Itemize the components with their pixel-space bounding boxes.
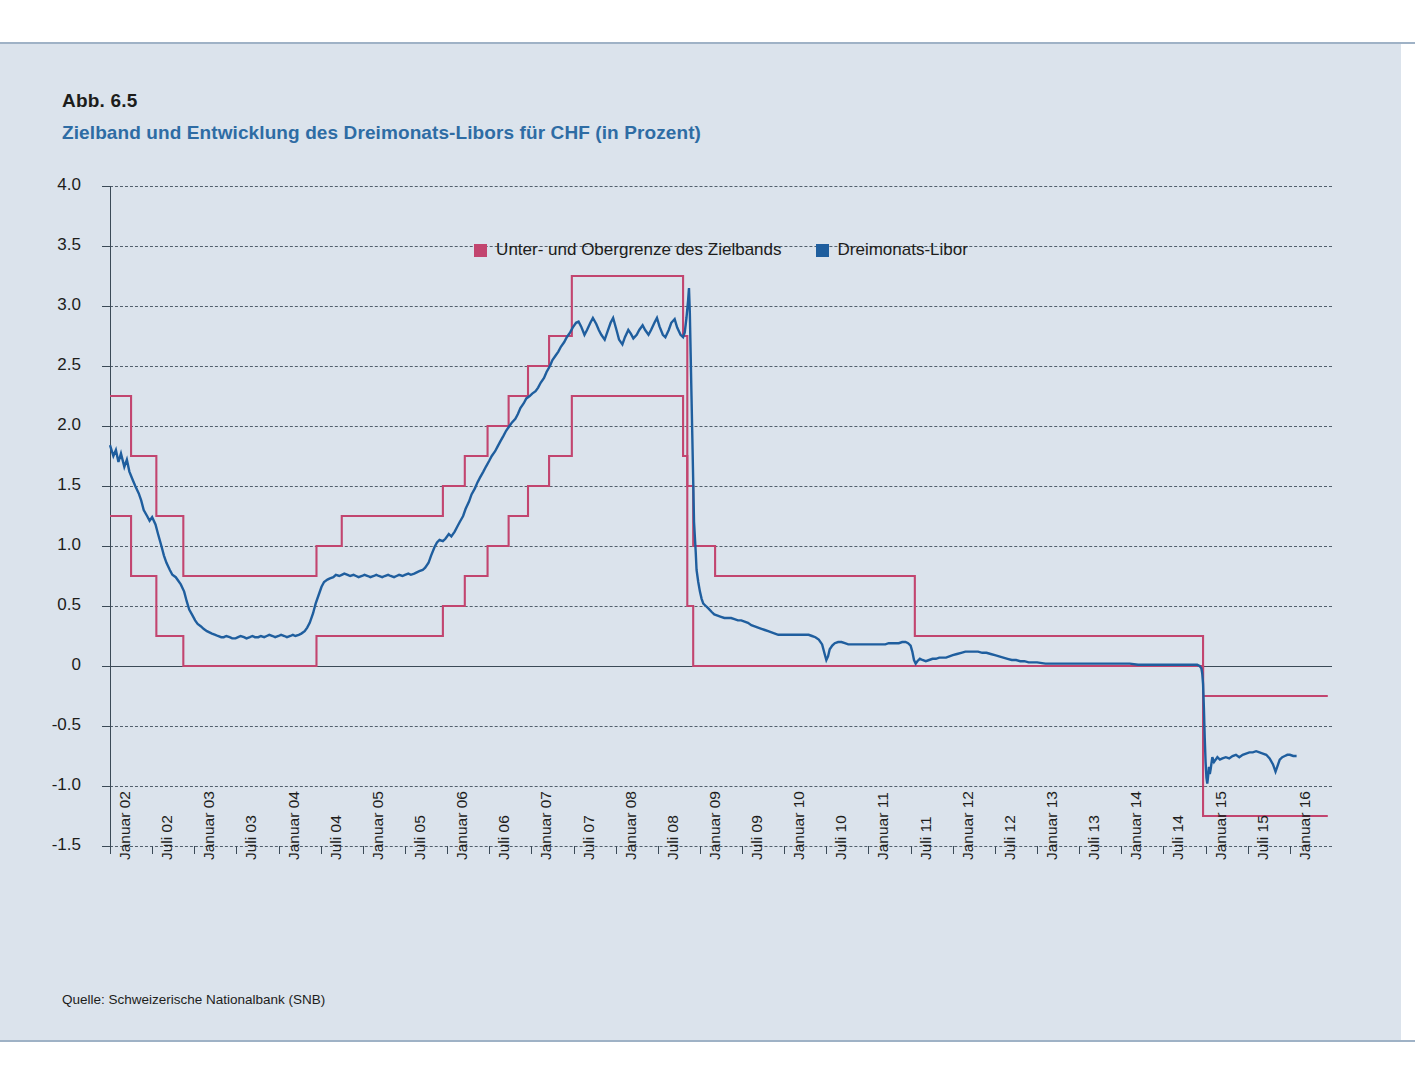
x-axis-label: Januar 13 <box>1043 791 1061 860</box>
y-axis-label: 1.5 <box>21 475 81 495</box>
y-axis-label: 0 <box>21 655 81 675</box>
legend-label: Dreimonats-Libor <box>838 240 968 260</box>
x-axis-label: Januar 02 <box>116 791 134 860</box>
y-axis-label: 0.5 <box>21 595 81 615</box>
x-tick <box>321 846 322 854</box>
figure-panel: Abb. 6.5 Zielband und Entwicklung des Dr… <box>0 42 1415 1042</box>
x-tick <box>279 846 280 854</box>
y-axis-label: -0.5 <box>21 715 81 735</box>
x-tick <box>447 846 448 854</box>
x-axis-label: Januar 05 <box>369 791 387 860</box>
x-tick <box>616 846 617 854</box>
x-axis-label: Juli 07 <box>580 815 598 860</box>
x-tick <box>1121 846 1122 854</box>
source-note: Quelle: Schweizerische Nationalbank (SNB… <box>62 992 325 1007</box>
x-axis-label: Juli 08 <box>664 815 682 860</box>
x-axis-label: Juli 11 <box>917 816 935 860</box>
legend-item: Dreimonats-Libor <box>816 240 968 260</box>
y-axis-label: 2.0 <box>21 415 81 435</box>
x-axis-label: Januar 09 <box>706 791 724 860</box>
x-axis-label: Januar 06 <box>453 791 471 860</box>
x-tick <box>1079 846 1080 854</box>
running-head <box>0 0 1415 40</box>
x-axis-label: Januar 10 <box>790 791 808 860</box>
figure-title: Zielband und Entwicklung des Dreimonats-… <box>62 122 701 144</box>
x-axis-label: Januar 11 <box>874 792 892 860</box>
chart-legend: Unter- und Obergrenze des ZielbandsDreim… <box>110 240 1332 260</box>
x-tick <box>1206 846 1207 854</box>
x-tick <box>236 846 237 854</box>
x-axis-label: Juli 05 <box>411 815 429 860</box>
x-axis-label: Juli 15 <box>1254 815 1272 860</box>
y-axis-label: 1.0 <box>21 535 81 555</box>
legend-swatch-icon <box>816 244 829 257</box>
x-tick <box>152 846 153 854</box>
x-tick <box>826 846 827 854</box>
x-axis-label: Januar 08 <box>622 791 640 860</box>
x-axis-label: Juli 06 <box>495 815 513 860</box>
x-axis-label: Juli 14 <box>1169 815 1187 860</box>
series-line <box>110 276 1328 696</box>
figure-number: Abb. 6.5 <box>62 90 138 112</box>
x-tick <box>784 846 785 854</box>
x-axis-label: Juli 09 <box>748 815 766 860</box>
x-tick <box>194 846 195 854</box>
x-tick <box>110 846 111 854</box>
y-axis-label: 2.5 <box>21 355 81 375</box>
x-axis-label: Januar 07 <box>537 791 555 860</box>
x-axis-label: Januar 15 <box>1212 791 1230 860</box>
x-axis-label: Januar 03 <box>200 791 218 860</box>
y-axis-label: -1.5 <box>21 835 81 855</box>
x-axis-label: Juli 12 <box>1001 815 1019 860</box>
x-tick <box>995 846 996 854</box>
y-axis-label: 3.5 <box>21 235 81 255</box>
x-tick <box>574 846 575 854</box>
x-axis-label: Juli 10 <box>832 815 850 860</box>
x-tick <box>363 846 364 854</box>
x-tick <box>953 846 954 854</box>
x-axis-label: Januar 14 <box>1127 791 1145 860</box>
x-axis-label: Januar 12 <box>959 791 977 860</box>
x-axis-label: Juli 13 <box>1085 815 1103 860</box>
x-axis-label: Juli 04 <box>327 815 345 860</box>
chart-plot-area <box>110 186 1332 846</box>
x-tick <box>658 846 659 854</box>
legend-swatch-icon <box>474 244 487 257</box>
x-tick <box>1248 846 1249 854</box>
y-axis-label: 3.0 <box>21 295 81 315</box>
series-line <box>110 396 1328 816</box>
x-tick <box>868 846 869 854</box>
legend-label: Unter- und Obergrenze des Zielbands <box>496 240 781 260</box>
x-axis-label: Juli 02 <box>158 815 176 860</box>
figure-page: Abb. 6.5 Zielband und Entwicklung des Dr… <box>0 0 1415 1088</box>
x-axis-label: Juli 03 <box>242 815 260 860</box>
x-tick <box>700 846 701 854</box>
x-tick <box>531 846 532 854</box>
x-tick <box>1037 846 1038 854</box>
legend-item: Unter- und Obergrenze des Zielbands <box>474 240 781 260</box>
x-tick <box>911 846 912 854</box>
x-tick <box>489 846 490 854</box>
data-series-layer <box>110 186 1332 846</box>
x-axis-label: Januar 04 <box>285 791 303 860</box>
x-tick <box>405 846 406 854</box>
y-axis-label: 4.0 <box>21 175 81 195</box>
x-tick <box>1290 846 1291 854</box>
x-tick <box>742 846 743 854</box>
x-tick <box>1163 846 1164 854</box>
series-line <box>110 288 1297 784</box>
x-axis-label: Januar 16 <box>1296 791 1314 860</box>
y-axis-label: -1.0 <box>21 775 81 795</box>
